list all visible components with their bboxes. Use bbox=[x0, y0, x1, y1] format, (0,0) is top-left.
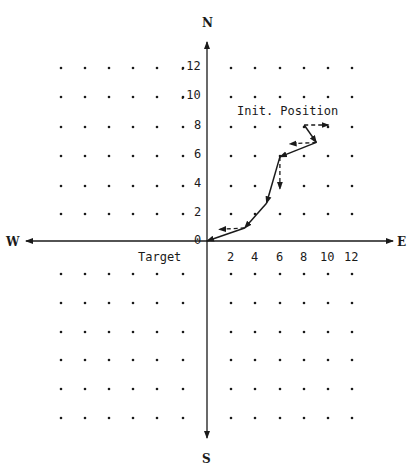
trajectory-path bbox=[207, 125, 316, 241]
x-tick-10: 10 bbox=[320, 250, 334, 264]
x-tick-8: 8 bbox=[300, 250, 307, 264]
y-tick-6: 6 bbox=[194, 147, 201, 161]
y-tick-2: 2 bbox=[194, 205, 201, 219]
y-tick-0: 0 bbox=[194, 233, 201, 247]
east-label: E bbox=[397, 235, 406, 249]
west-label: W bbox=[6, 235, 19, 249]
init-position-label: Init. Position bbox=[237, 104, 338, 118]
y-tick-4: 4 bbox=[194, 176, 201, 190]
north-label: N bbox=[202, 16, 213, 30]
y-tick-8: 8 bbox=[194, 118, 201, 132]
compass-diagram bbox=[0, 0, 411, 471]
x-tick-4: 4 bbox=[251, 250, 258, 264]
south-label: S bbox=[202, 452, 211, 466]
x-tick-12: 12 bbox=[344, 250, 358, 264]
x-tick-2: 2 bbox=[227, 250, 234, 264]
x-tick-6: 6 bbox=[276, 250, 283, 264]
y-tick-12: .12 bbox=[179, 59, 201, 73]
y-tick-10: .10 bbox=[179, 88, 201, 102]
target-label: Target bbox=[138, 250, 181, 264]
